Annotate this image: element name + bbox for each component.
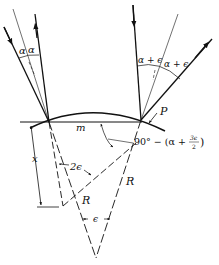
two-eps-arrow-left xyxy=(59,164,69,165)
reflection-diagram: α α α + ϵ α + ϵ P m 90° − (α + 3ϵ 2 ) 2ϵ… xyxy=(0,0,219,265)
alpha-left-1: α xyxy=(19,45,26,56)
angle-expr-num: 3ϵ xyxy=(190,134,198,141)
distance-x-label: x xyxy=(32,153,38,164)
p-pointer xyxy=(149,113,157,123)
angle-expr-close: ) xyxy=(200,136,204,149)
alpha-eps-1: α + ϵ xyxy=(138,55,162,65)
alpha-left-2: α xyxy=(28,44,35,55)
angle-expression: 90° − (α + xyxy=(134,136,186,147)
two-eps-arrow-right xyxy=(84,170,91,175)
chord-m-label: m xyxy=(76,122,85,133)
right-normal-dash xyxy=(153,70,155,80)
left-radius xyxy=(49,122,96,258)
left-normal-dash xyxy=(29,62,35,76)
angle-expr-den: 2 xyxy=(192,143,196,150)
two-eps-label: 2ϵ xyxy=(69,161,82,172)
angle-leader xyxy=(108,139,133,143)
right-reflected-arrow xyxy=(195,44,207,58)
x-dimension-line xyxy=(31,126,41,205)
point-p-label: P xyxy=(159,105,168,118)
radius-right-label: R xyxy=(125,175,134,188)
eps-apex-label: ϵ xyxy=(93,214,98,224)
radius-left-label: R xyxy=(81,194,90,207)
right-incident-arrow xyxy=(133,5,134,24)
angle-arc xyxy=(101,124,113,147)
left-normal-line xyxy=(13,9,49,122)
alpha-eps-2: α + ϵ xyxy=(164,59,188,69)
left-incident-arrow xyxy=(4,27,11,42)
